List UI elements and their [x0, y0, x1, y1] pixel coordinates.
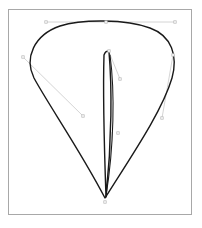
drawing-frame: [9, 10, 192, 215]
handle-node-top-left[interactable]: [45, 21, 47, 23]
vector-illustration[interactable]: [0, 0, 202, 228]
handle-node-top-right[interactable]: [174, 21, 176, 23]
handle-node-sliver-lower-mid[interactable]: [117, 132, 119, 134]
handle-node-left-upper[interactable]: [22, 56, 24, 58]
handle-node-apex[interactable]: [104, 201, 106, 203]
handle-node-right-upper[interactable]: [172, 54, 174, 56]
handle-node-sliver-upper-mid[interactable]: [119, 78, 121, 80]
handle-node-left-lower[interactable]: [82, 115, 84, 117]
drawing-canvas[interactable]: [0, 0, 202, 228]
handle-node-right-lower[interactable]: [161, 117, 163, 119]
handle-node-sliver-top[interactable]: [108, 50, 110, 52]
handle-node-top-center[interactable]: [105, 21, 107, 23]
